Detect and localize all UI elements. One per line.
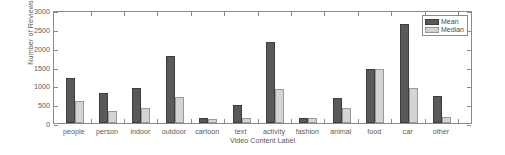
legend-item-mean: Mean [425, 18, 464, 25]
legend-swatch-mean-icon [425, 19, 439, 25]
x-tick-mark [224, 12, 225, 16]
bar-group [258, 42, 291, 123]
bar-mean-people [66, 78, 75, 123]
x-tick-mark [191, 12, 192, 16]
x-tick-label-cartoon: cartoon [195, 127, 219, 136]
y-tick-label: 2500 [34, 27, 54, 34]
y-tick-label: 1000 [34, 84, 54, 91]
bar-group [392, 24, 425, 123]
bar-group [158, 56, 191, 123]
bar-median-cartoon [208, 119, 217, 123]
bar-mean-person [99, 93, 108, 123]
bar-median-food [375, 69, 384, 123]
bar-group [425, 96, 458, 123]
y-tick-mark [467, 87, 471, 88]
x-tick-mark [258, 12, 259, 16]
y-tick-label: 0 [46, 121, 54, 128]
y-tick-mark [467, 50, 471, 51]
chart-legend: Mean Median [422, 15, 468, 36]
legend-item-median: Median [425, 26, 464, 33]
y-tick-mark [54, 12, 58, 13]
bar-group [58, 78, 91, 123]
bar-median-outdoor [175, 97, 184, 123]
bar-group [325, 98, 358, 123]
bar-group [125, 88, 158, 123]
y-tick-label: 2000 [34, 46, 54, 53]
y-tick-mark [54, 50, 58, 51]
x-tick-label-animal: animal [330, 127, 351, 136]
y-tick-label: 1500 [34, 65, 54, 72]
x-tick-label-people: people [63, 127, 85, 136]
x-tick-label-activity: activity [263, 127, 285, 136]
bar-median-activity [275, 89, 284, 123]
bar-median-animal [342, 108, 351, 123]
y-tick-mark [54, 31, 58, 32]
bar-mean-indoor [132, 88, 141, 123]
bar-median-fashion [308, 118, 317, 123]
bar-mean-cartoon [199, 118, 208, 123]
y-tick-mark [467, 12, 471, 13]
y-tick-mark [467, 125, 471, 126]
y-tick-label: 3000 [34, 8, 54, 15]
bar-median-text [242, 118, 251, 123]
x-tick-mark [391, 12, 392, 16]
bar-median-car [409, 88, 418, 123]
x-tick-mark [324, 12, 325, 16]
y-tick-mark [467, 69, 471, 70]
y-tick-label: 500 [38, 103, 54, 110]
x-tick-label-food: food [367, 127, 381, 136]
legend-label-mean: Mean [441, 18, 459, 25]
x-tick-label-car: car [403, 127, 413, 136]
y-tick-mark [54, 125, 58, 126]
x-tick-label-fashion: fashion [296, 127, 319, 136]
x-tick-mark [91, 12, 92, 16]
x-axis-title: Video Content Label [53, 136, 472, 145]
bar-chart-figure: Number of Reviews 0500100015002000250030… [0, 0, 505, 155]
bar-mean-animal [333, 98, 342, 123]
x-tick-label-indoor: indoor [130, 127, 150, 136]
bar-mean-text [233, 105, 242, 123]
bar-group [225, 105, 258, 123]
bar-group [358, 69, 391, 123]
x-tick-label-person: person [96, 127, 118, 136]
plot-area: 050010001500200025003000 Mean Median [53, 11, 472, 124]
x-tick-mark [124, 12, 125, 16]
bar-mean-car [400, 24, 409, 123]
bar-median-person [108, 111, 117, 123]
bar-mean-food [366, 69, 375, 123]
y-tick-mark [467, 106, 471, 107]
bar-median-other [442, 117, 451, 123]
bar-group [91, 93, 124, 123]
bar-mean-other [433, 96, 442, 123]
legend-swatch-median-icon [425, 27, 439, 33]
bar-group [292, 118, 325, 123]
x-tick-mark [358, 12, 359, 16]
x-tick-label-text: text [235, 127, 247, 136]
bar-group [192, 118, 225, 123]
x-tick-label-outdoor: outdoor [162, 127, 186, 136]
bar-mean-activity [266, 42, 275, 123]
bar-median-people [75, 101, 84, 123]
x-tick-mark [157, 12, 158, 16]
legend-label-median: Median [441, 26, 464, 33]
x-tick-label-other: other [433, 127, 449, 136]
x-tick-mark [291, 12, 292, 16]
y-tick-mark [54, 69, 58, 70]
bar-median-indoor [141, 108, 150, 123]
bar-mean-outdoor [166, 56, 175, 123]
bar-mean-fashion [299, 118, 308, 123]
